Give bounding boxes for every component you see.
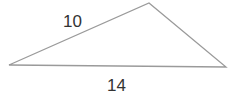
base-length-label: 14 <box>107 76 126 95</box>
triangle-diagram: 10 14 <box>0 0 237 107</box>
left-side-length-label: 10 <box>63 12 82 31</box>
triangle-shape <box>9 3 226 67</box>
